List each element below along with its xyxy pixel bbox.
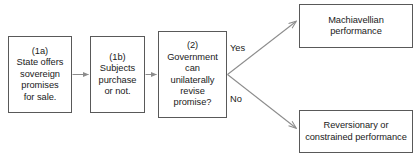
flowchart-diagram: (1a) State offers sovereign promises for… [0,0,418,158]
branch-label-no: No [230,94,242,105]
branch-label-yes: Yes [230,43,245,54]
node-state-offers-sovereign-promises: (1a) State offers sovereign promises for… [8,36,72,113]
node-machiavellian-performance: Machiavellian performance [299,4,413,48]
node-reversionary-constrained-performance: Reversionary or constrained performance [299,110,413,153]
node-machiavellian-label: Machiavellian performance [300,15,412,38]
node-subjects-label: (1b) Subjects purchase or not. [91,52,144,98]
node-government-label: (2) Government can unilaterally revise p… [159,40,226,108]
node-reversionary-label: Reversionary or constrained performance [300,120,412,143]
node-state-offers-label: (1a) State offers sovereign promises for… [9,46,71,103]
node-government-revise-promise: (2) Government can unilaterally revise p… [158,31,227,118]
node-subjects-purchase: (1b) Subjects purchase or not. [90,36,145,113]
